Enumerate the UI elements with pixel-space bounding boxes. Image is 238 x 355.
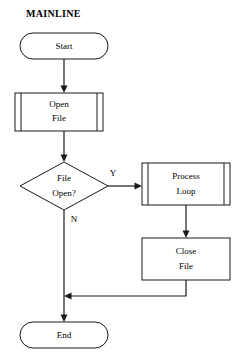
arrow-head-down-icon bbox=[183, 231, 190, 239]
decision-shape bbox=[20, 162, 108, 210]
open-file-label-line2: File bbox=[52, 113, 66, 123]
close-file-shape bbox=[142, 238, 230, 280]
node-decision-file-open[interactable]: File Open? bbox=[20, 162, 108, 210]
start-label: Start bbox=[56, 41, 73, 51]
node-close-file[interactable]: Close File bbox=[142, 238, 230, 280]
connector-open-file-to-decision bbox=[61, 131, 68, 162]
arrow-head-down-icon bbox=[61, 315, 68, 323]
end-label: End bbox=[57, 330, 72, 340]
node-open-file[interactable]: Open File bbox=[15, 93, 103, 131]
flowchart-canvas: MAINLINE Start Open File File bbox=[0, 0, 238, 355]
connector-process-loop-to-close-file bbox=[183, 205, 190, 238]
connector-start-to-open-file bbox=[61, 59, 68, 93]
connector-no-branch bbox=[61, 210, 68, 322]
decision-label-line1: File bbox=[57, 173, 71, 183]
arrow-head-right-icon bbox=[135, 183, 143, 190]
connector-yes-branch bbox=[108, 183, 142, 190]
arrow-head-down-icon bbox=[61, 86, 68, 94]
close-file-label-line1: Close bbox=[176, 246, 197, 256]
connector-close-file-to-main-line bbox=[64, 280, 186, 300]
arrow-head-left-icon bbox=[64, 293, 72, 300]
branch-label-no: N bbox=[71, 214, 78, 224]
node-start[interactable]: Start bbox=[20, 33, 108, 59]
open-file-label-line1: Open bbox=[49, 99, 69, 109]
process-loop-label-line1: Process bbox=[172, 171, 200, 181]
flowchart-svg: Start Open File File Open? bbox=[0, 0, 238, 355]
node-end[interactable]: End bbox=[20, 322, 108, 348]
process-loop-shape bbox=[142, 163, 230, 205]
process-loop-label-line2: Loop bbox=[177, 186, 196, 196]
close-file-label-line2: File bbox=[179, 261, 193, 271]
branch-label-yes: Y bbox=[110, 168, 117, 178]
arrow-head-down-icon bbox=[61, 155, 68, 163]
node-process-loop[interactable]: Process Loop bbox=[142, 163, 230, 205]
decision-label-line2: Open? bbox=[52, 188, 76, 198]
